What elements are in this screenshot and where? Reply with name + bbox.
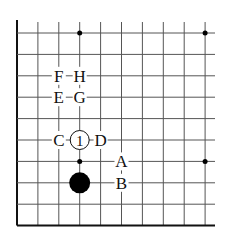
svg-text:E: E — [54, 88, 64, 107]
svg-text:A: A — [115, 152, 128, 171]
svg-text:C: C — [53, 131, 64, 150]
black-stone — [69, 172, 90, 193]
point-label-g: G — [73, 88, 87, 107]
go-board: FHEGCDAB 1 — [0, 0, 231, 240]
move-number: 1 — [76, 133, 84, 149]
grid-lines — [17, 20, 215, 226]
point-label-b: B — [115, 174, 129, 193]
point-labels: FHEGCDAB — [52, 67, 129, 193]
svg-text:H: H — [74, 67, 86, 86]
point-label-d: D — [94, 131, 108, 150]
point-label-a: A — [115, 152, 129, 171]
point-label-c: C — [52, 131, 66, 150]
svg-text:D: D — [94, 131, 106, 150]
svg-text:B: B — [116, 174, 127, 193]
svg-text:G: G — [74, 88, 86, 107]
star-point-icon — [203, 159, 208, 164]
point-label-h: H — [73, 67, 87, 86]
star-point-icon — [77, 31, 82, 36]
point-label-e: E — [52, 88, 66, 107]
star-point-icon — [203, 31, 208, 36]
point-label-f: F — [52, 67, 66, 86]
svg-text:F: F — [54, 67, 63, 86]
star-point-icon — [77, 159, 82, 164]
white-stone: 1 — [70, 131, 89, 150]
